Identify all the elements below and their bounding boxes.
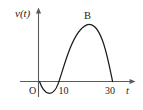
velocity-curve <box>40 24 113 93</box>
origin-label: O <box>29 85 36 96</box>
y-axis-label: v(t) <box>15 7 31 20</box>
x-tick-label-30: 30 <box>105 85 115 96</box>
x-axis-arrowhead <box>130 79 136 84</box>
y-axis-arrowhead <box>36 8 41 14</box>
graph-canvas: v(t) t O 10 30 B <box>0 0 143 110</box>
velocity-time-figure: v(t) t O 10 30 B <box>0 0 143 110</box>
x-axis-label: t <box>126 85 130 96</box>
x-tick-label-10: 10 <box>59 85 69 96</box>
peak-point-label-b: B <box>84 10 91 21</box>
